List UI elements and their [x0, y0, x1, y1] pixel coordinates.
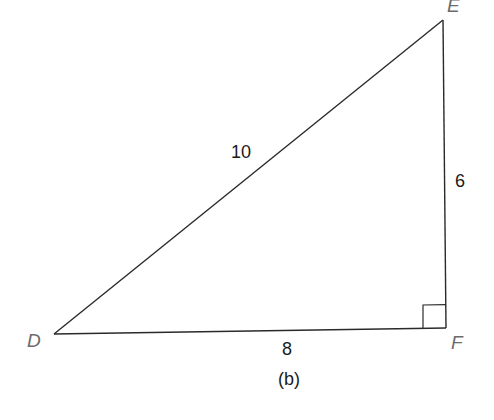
figure-caption: (b)	[278, 369, 300, 389]
vertex-label-d: D	[27, 330, 41, 351]
side-de	[54, 20, 443, 334]
side-label-de: 10	[231, 142, 251, 162]
side-df	[54, 328, 446, 334]
vertex-label-e: E	[447, 0, 460, 16]
side-label-ef: 6	[455, 171, 465, 191]
vertex-label-f: F	[451, 332, 464, 353]
right-triangle-diagram: E F D 10 6 8 (b)	[0, 0, 494, 420]
side-label-df: 8	[282, 339, 292, 359]
right-angle-marker	[423, 305, 446, 329]
side-ef	[443, 20, 446, 328]
